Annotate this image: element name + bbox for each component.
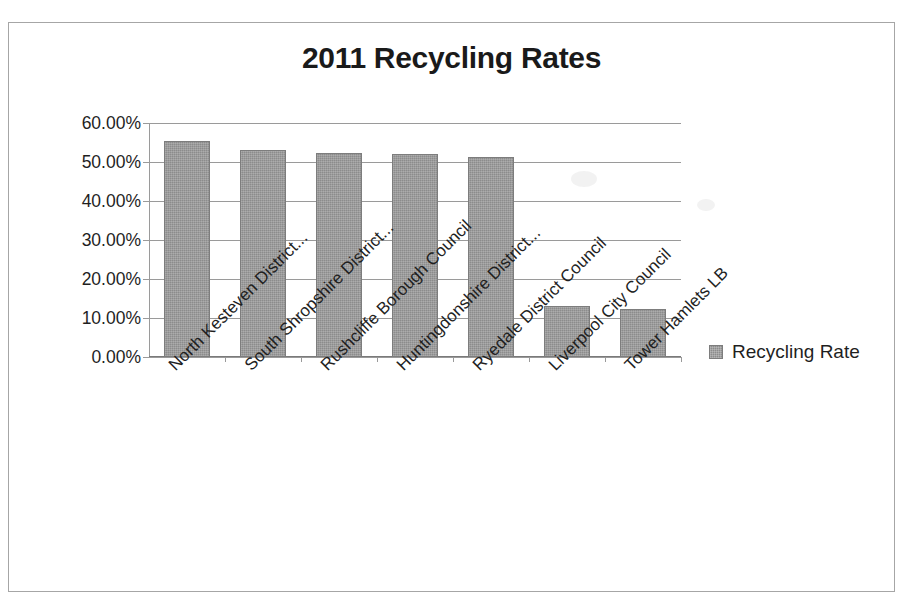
y-axis-tick-label: 20.00% bbox=[82, 269, 141, 290]
y-axis-tick bbox=[143, 240, 149, 241]
y-axis-tick-label: 40.00% bbox=[82, 191, 141, 212]
chart-legend: Recycling Rate bbox=[709, 341, 860, 363]
y-axis-tick-label: 30.00% bbox=[82, 230, 141, 251]
chart-frame: 2011 Recycling Rates 60.00%50.00%40.00%3… bbox=[8, 22, 895, 592]
legend-swatch-recycling-rate bbox=[709, 345, 723, 359]
legend-label-recycling-rate: Recycling Rate bbox=[732, 341, 860, 363]
y-axis-tick-label: 0.00% bbox=[91, 347, 141, 368]
y-axis-tick-label: 60.00% bbox=[82, 113, 141, 134]
y-axis-tick bbox=[143, 123, 149, 124]
y-axis-labels: 60.00%50.00%40.00%30.00%20.00%10.00%0.00… bbox=[33, 123, 141, 357]
chart-title: 2011 Recycling Rates bbox=[9, 41, 894, 75]
y-axis-tick bbox=[143, 201, 149, 202]
y-axis-tick bbox=[143, 318, 149, 319]
gridline bbox=[149, 123, 681, 124]
y-axis-tick-label: 50.00% bbox=[82, 152, 141, 173]
y-axis-tick bbox=[143, 162, 149, 163]
scan-artifact bbox=[697, 199, 715, 211]
y-axis-tick bbox=[143, 279, 149, 280]
y-axis-tick-label: 10.00% bbox=[82, 308, 141, 329]
x-axis-labels: North Kesteven District...South Shropshi… bbox=[149, 361, 709, 551]
y-axis-tick bbox=[143, 357, 149, 358]
